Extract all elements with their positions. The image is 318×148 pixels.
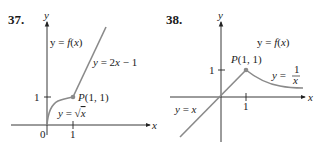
figure-number: 38. xyxy=(166,12,182,27)
y-axis-label: y xyxy=(217,9,223,21)
figure-37: 37. y x 0 1 1 y = f(x) y = 2x − 1 P(1, 1… xyxy=(8,9,157,140)
x-axis-label: x xyxy=(151,119,157,131)
x-axis-label: x xyxy=(307,91,313,103)
linear-piece-label: y = x xyxy=(174,103,197,115)
x-tick-label: 1 xyxy=(243,100,249,112)
x-tick-label: 1 xyxy=(70,128,76,140)
point-p xyxy=(71,95,76,100)
reciprocal-piece-label: y = 1 x xyxy=(271,63,300,86)
y-axis-label: y xyxy=(43,9,49,21)
figure-38: 38. y x 1 1 y = f(x) P(1, 1) y = 1 x y =… xyxy=(166,9,313,142)
figure-number: 37. xyxy=(8,12,24,27)
point-label: P(1, 1) xyxy=(77,91,109,104)
linear-piece-label: y = 2x − 1 xyxy=(92,56,137,68)
function-label: y = f(x) xyxy=(257,36,290,49)
origin-label: 0 xyxy=(40,128,46,140)
figure-canvas: 37. y x 0 1 1 y = f(x) y = 2x − 1 P(1, 1… xyxy=(0,0,318,148)
sqrt-piece-label: y = √x xyxy=(57,107,86,119)
svg-text:x: x xyxy=(292,74,298,86)
y-tick-label: 1 xyxy=(34,91,40,103)
function-label: y = f(x) xyxy=(50,36,83,49)
point-p xyxy=(244,68,249,73)
point-label: P(1, 1) xyxy=(230,53,262,66)
y-tick-label: 1 xyxy=(209,64,215,76)
svg-text:y =: y = xyxy=(271,69,286,81)
